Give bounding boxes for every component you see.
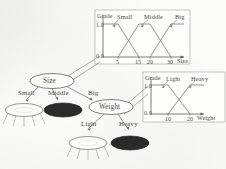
node-weight-label: Weight [99,104,120,111]
edge-label-heavy: Heavy [119,121,138,128]
edge-label-big: Big [88,90,98,97]
chart-weight-ylabel: Grade [145,75,161,81]
chart-weight-xtick-20: 20 [187,116,193,122]
chart-size-xlabel: Size [177,58,188,64]
chart-size-ytick-top: 1.0 [96,22,104,28]
chart-weight-ytick-bottom: 0.0 [144,110,152,116]
figure-canvas: Grade 1.0 0.0 5 15 20 30 Size Small Midd… [0,0,226,169]
series-label-heavy: Heavy [191,76,208,82]
chart-size-xtick-5: 5 [116,59,119,65]
diagram-vectors [0,0,226,169]
series-label-light: Light [166,76,180,82]
chart-size-ytick-bottom: 0.0 [96,53,104,59]
leaf-heavy[interactable] [111,136,149,150]
edge-label-light: Light [81,121,97,128]
chart-weight-xtick-10: 10 [165,116,171,122]
leaf-middle[interactable] [44,103,82,117]
node-size-label: Size [43,78,56,85]
chart-size-xtick-15: 15 [135,59,141,65]
edge-label-small: Small [18,90,35,97]
chart-weight-xlabel: Weight [197,115,215,121]
series-label-small: Small [117,14,132,20]
chart-size-ylabel: Grade [97,13,113,19]
series-label-middle: Middle [144,14,163,20]
edge-label-middle: Middle [48,90,69,97]
series-label-big: Big [175,14,185,20]
leaf-small[interactable] [3,104,45,128]
leaf-light[interactable] [67,137,109,161]
chart-size-xtick-20: 20 [147,59,153,65]
chart-size-xtick-30: 30 [167,59,173,65]
chart-weight-ytick-top: 1.0 [144,83,152,89]
